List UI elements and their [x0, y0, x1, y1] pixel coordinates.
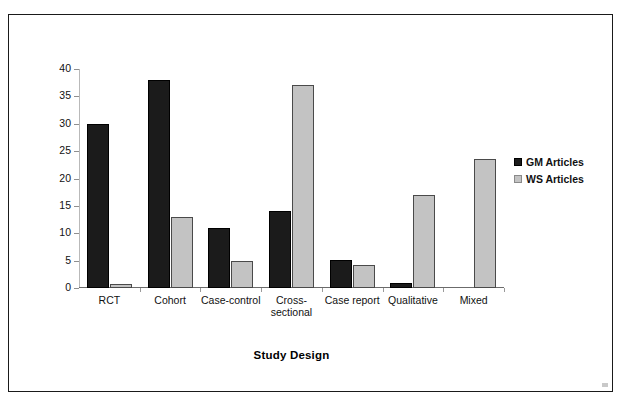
x-axis-tick-mark	[200, 288, 201, 292]
y-axis-tick-mark	[74, 151, 79, 152]
x-axis-category-label: Qualitative	[383, 294, 444, 306]
y-axis-tick-mark	[74, 261, 79, 262]
bar	[87, 124, 109, 288]
plot-area: 4035302520151050 % RCTCohortCase-control…	[79, 69, 504, 288]
bar	[148, 80, 170, 288]
y-axis-tick-mark	[74, 233, 79, 234]
y-axis-tick: 40	[38, 69, 79, 70]
x-axis-tick-mark	[383, 288, 384, 292]
y-axis-tick: 20	[38, 179, 79, 180]
y-axis-tick-label: 5	[65, 254, 71, 266]
bar	[110, 284, 132, 288]
bar	[171, 217, 193, 288]
y-axis-line	[79, 69, 80, 288]
x-axis-title: Study Design	[79, 349, 504, 361]
bar-group	[87, 69, 132, 288]
legend-item-label: WS Articles	[526, 173, 584, 185]
x-axis-category-label: Case-control	[200, 294, 261, 306]
x-axis-tick-mark	[261, 288, 262, 292]
y-axis-tick-label: 25	[59, 144, 71, 156]
bar	[353, 265, 375, 288]
bar	[231, 261, 253, 288]
bar	[474, 159, 496, 288]
scan-artifact	[602, 383, 608, 387]
y-axis-tick: 30	[38, 124, 79, 125]
bar	[269, 211, 291, 288]
y-axis-tick-label: 30	[59, 117, 71, 129]
x-axis-tick-mark	[504, 288, 505, 292]
bar-group	[148, 69, 193, 288]
y-axis-tick-mark	[74, 96, 79, 97]
y-axis-tick: 35	[38, 96, 79, 97]
y-axis-tick-mark	[74, 124, 79, 125]
x-axis-category-label: Cross- sectional	[261, 294, 322, 318]
bar	[330, 260, 352, 288]
x-axis-category-label: Case report	[322, 294, 383, 306]
bar	[390, 283, 412, 288]
bar-group	[269, 69, 314, 288]
y-axis-tick: 25	[38, 151, 79, 152]
y-axis-tick-label: 15	[59, 199, 71, 211]
x-axis-category-label: Mixed	[443, 294, 504, 306]
bar	[208, 228, 230, 288]
x-axis-category-label: RCT	[79, 294, 140, 306]
bar	[292, 85, 314, 288]
bar-group	[451, 69, 496, 288]
y-axis-tick: 5	[38, 261, 79, 262]
bar-group	[330, 69, 375, 288]
y-axis-tick-mark	[74, 69, 79, 70]
y-axis-tick: 0	[38, 288, 79, 289]
y-axis-tick-mark	[74, 206, 79, 207]
black-square-icon	[514, 158, 522, 166]
y-axis-tick-label: 10	[59, 226, 71, 238]
y-axis-tick-label: 0	[65, 281, 71, 293]
y-axis-tick-label: 35	[59, 89, 71, 101]
legend-item: WS Articles	[514, 172, 584, 185]
y-axis-tick-mark	[74, 288, 79, 289]
bar	[413, 195, 435, 288]
legend-item-label: GM Articles	[526, 156, 584, 168]
gray-square-icon	[514, 175, 522, 183]
x-axis-tick-mark	[443, 288, 444, 292]
y-axis-tick-mark	[74, 179, 79, 180]
legend: GM ArticlesWS Articles	[514, 155, 584, 189]
bar-group	[390, 69, 435, 288]
x-axis-tick-mark	[322, 288, 323, 292]
figure-frame: 4035302520151050 % RCTCohortCase-control…	[8, 14, 613, 392]
legend-item: GM Articles	[514, 155, 584, 168]
y-axis-tick: 10	[38, 233, 79, 234]
x-axis-tick-mark	[140, 288, 141, 292]
y-axis-tick-label: 20	[59, 172, 71, 184]
bar-group	[208, 69, 253, 288]
y-axis-tick-label: 40	[59, 62, 71, 74]
x-axis-category-label: Cohort	[140, 294, 201, 306]
y-axis-tick: 15	[38, 206, 79, 207]
